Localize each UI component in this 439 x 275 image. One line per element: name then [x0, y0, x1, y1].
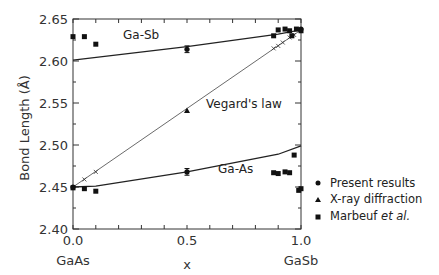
svg-text:X-ray diffraction: X-ray diffraction	[330, 192, 422, 206]
x-marker-icon	[272, 46, 276, 50]
square-marker-icon	[316, 215, 321, 220]
theory-curve	[73, 146, 301, 187]
y-tick-label: 2.60	[39, 54, 68, 69]
triangle-marker-icon	[315, 197, 321, 202]
square-marker-icon	[93, 42, 98, 47]
square-marker-icon	[287, 28, 292, 33]
square-marker-icon	[93, 189, 98, 194]
square-marker-icon	[71, 34, 76, 39]
theory-curve	[73, 30, 301, 60]
x-tick-sublabel-gasb: GaSb	[284, 253, 319, 268]
y-tick-label: 2.65	[39, 12, 68, 27]
square-marker-icon	[271, 33, 276, 38]
x-axis-label: x	[183, 257, 191, 272]
legend: Present results X-ray diffraction Marbeu…	[315, 176, 422, 223]
x-tick-label: 1.0	[291, 233, 312, 248]
plot-axes: 0.00.51.0GaSb2.402.452.502.552.602.65	[39, 12, 318, 268]
square-marker-icon	[276, 27, 281, 32]
x-marker-icon	[281, 41, 285, 45]
legend-item-marbeuf: Marbeuf et al.	[316, 209, 411, 223]
square-marker-icon	[283, 169, 288, 174]
y-tick-label: 2.40	[39, 222, 68, 237]
y-tick-label: 2.50	[39, 138, 68, 153]
svg-text:Present results: Present results	[330, 176, 415, 190]
bond-length-chart: 0.00.51.0GaSb2.402.452.502.552.602.65 Bo…	[0, 0, 439, 275]
x-tick-sublabel-gaas: GaAs	[56, 253, 90, 268]
x-marker-icon	[82, 177, 86, 181]
legend-item-present-results: Present results	[316, 176, 416, 190]
square-marker-icon	[271, 170, 276, 175]
square-marker-icon	[292, 153, 297, 158]
square-marker-icon	[294, 27, 299, 32]
square-marker-icon	[299, 186, 304, 191]
square-marker-icon	[82, 34, 87, 39]
square-marker-icon	[276, 171, 281, 176]
svg-text:Marbeuf et al.: Marbeuf et al.	[330, 209, 410, 223]
annotation-ga-sb: Ga-Sb	[123, 28, 159, 42]
square-marker-icon	[71, 185, 76, 190]
x-tick-label: 0.5	[177, 233, 198, 248]
square-marker-icon	[299, 28, 304, 33]
square-marker-icon	[283, 27, 288, 32]
square-marker-icon	[289, 33, 294, 38]
y-tick-label: 2.55	[39, 96, 68, 111]
annotation-vegards-law: Vegard's law	[206, 97, 282, 111]
circle-marker-icon	[316, 181, 321, 186]
x-marker-icon	[276, 44, 280, 48]
y-tick-label: 2.45	[39, 180, 68, 195]
legend-item-xray-diffraction: X-ray diffraction	[315, 192, 422, 206]
annotation-ga-as: Ga-As	[218, 162, 253, 176]
square-marker-icon	[82, 186, 87, 191]
y-axis-label: Bond Length (Å)	[17, 75, 32, 181]
square-marker-icon	[287, 170, 292, 175]
